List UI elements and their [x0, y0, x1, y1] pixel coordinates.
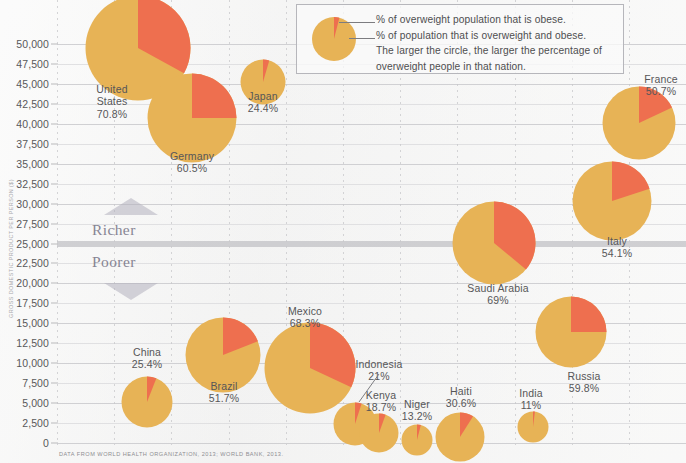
legend-leader-line-2 [349, 38, 375, 39]
y-tick-label: 10,000 [0, 357, 49, 369]
y-tick-label: 22,500 [0, 257, 49, 269]
bubble-india[interactable] [517, 411, 549, 443]
y-tick-label: 0 [0, 437, 49, 449]
country-label-italy: Italy 54.1% [602, 235, 633, 260]
arrow-up-icon [104, 198, 158, 215]
country-label-russia: Russia 59.8% [568, 370, 601, 395]
y-axis: GROSS DOMESTIC PRODUCT PER PERSON ($) 50… [0, 0, 57, 463]
country-label-china: China 25.4% [132, 346, 163, 371]
y-tick-label: 45,000 [0, 78, 49, 90]
arrow-down-icon [104, 283, 158, 300]
legend-leader-line-1 [339, 22, 375, 23]
y-tick-label: 37,500 [0, 138, 49, 150]
y-tick-label: 25,000 [0, 238, 49, 250]
country-label-japan: Japan 24.4% [248, 90, 279, 115]
y-tick-label: 5,000 [0, 397, 49, 409]
bubble-haiti[interactable] [435, 412, 485, 462]
bubble-russia[interactable] [535, 296, 607, 368]
y-tick-label: 40,000 [0, 118, 49, 130]
bubble-chart: GROSS DOMESTIC PRODUCT PER PERSON ($) 50… [0, 0, 686, 463]
poorer-label: Poorer [92, 253, 212, 271]
country-label-haiti: Haiti 30.6% [446, 385, 477, 410]
y-tick-label: 42,500 [0, 98, 49, 110]
country-label-saudi-arabia: Saudi Arabia 69% [467, 282, 528, 307]
y-tick-label: 35,000 [0, 158, 49, 170]
y-tick-label: 17,500 [0, 297, 49, 309]
bubble-niger[interactable] [401, 424, 433, 456]
legend-line-4: overweight people in that nation. [376, 59, 602, 75]
bubble-saudi-arabia[interactable] [452, 201, 536, 285]
y-tick-label: 47,500 [0, 58, 49, 70]
y-tick-label: 2,500 [0, 417, 49, 429]
y-tick-label: 27,500 [0, 218, 49, 230]
y-tick-label: 7,500 [0, 377, 49, 389]
richer-poorer-annotation: Richer Poorer [92, 198, 212, 300]
country-label-brazil: Brazil 51.7% [209, 380, 240, 405]
y-tick-label: 12,500 [0, 337, 49, 349]
bubble-mexico[interactable] [264, 322, 356, 414]
y-tick-label: 20,000 [0, 277, 49, 289]
bubble-kenya[interactable] [359, 413, 399, 453]
country-label-united-states: United States 70.8% [96, 83, 127, 120]
y-tick-label: 50,000 [0, 38, 49, 50]
bubble-china[interactable] [121, 376, 173, 428]
legend-line-2: % of population that is overweight and o… [376, 28, 602, 44]
legend-text: % of overweight population that is obese… [376, 12, 602, 74]
y-tick-label: 30,000 [0, 198, 49, 210]
legend-line-1: % of overweight population that is obese… [376, 12, 602, 28]
legend-box: % of overweight population that is obese… [296, 4, 624, 74]
country-label-france: France 50.7% [644, 73, 678, 98]
country-label-niger: Niger 13.2% [402, 398, 433, 423]
country-label-mexico: Mexico 68.3% [288, 305, 322, 330]
y-tick-label: 15,000 [0, 317, 49, 329]
source-note: DATA FROM WORLD HEALTH ORGANIZATION, 201… [59, 451, 283, 457]
country-label-germany: Germany 60.5% [170, 150, 214, 175]
y-tick-label: 32,500 [0, 178, 49, 190]
bubble-italy[interactable] [572, 161, 652, 241]
indonesia-leader-line [347, 372, 387, 412]
country-label-india: India 11% [519, 387, 543, 412]
gridline-vertical [57, 0, 58, 445]
richer-label: Richer [92, 221, 212, 239]
legend-line-3: The larger the circle, the larger the pe… [376, 43, 602, 59]
